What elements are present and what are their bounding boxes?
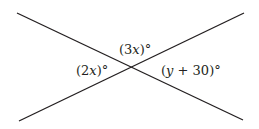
angle-label-right: (y + 30)° — [161, 63, 221, 78]
intersecting-lines-diagram: (3x)° (2x)° (y + 30)° — [0, 0, 259, 129]
angle-label-left: (2x)° — [76, 63, 108, 78]
angle-label-top: (3x)° — [119, 42, 151, 57]
